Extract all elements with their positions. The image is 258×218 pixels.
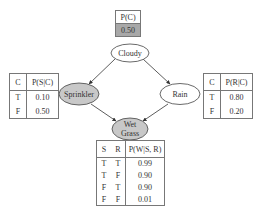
cpt-wetgrass-row-s: T: [97, 170, 112, 182]
cpt-wetgrass-row-p: 0.01: [126, 194, 165, 206]
edge-sprinkler-wetgrass: [91, 104, 116, 121]
cpt-wetgrass: S R P(W|S, R) T T 0.99 T F 0.90 F T 0.90…: [96, 140, 165, 206]
node-sprinkler-label: Sprinkler: [64, 90, 94, 99]
cpt-rain-row-p: 0.20: [221, 105, 253, 119]
cpt-rain-header-p: P(R|C): [221, 74, 253, 91]
cpt-wetgrass-row-r: F: [111, 170, 126, 182]
cpt-wetgrass-header-r: R: [111, 141, 126, 158]
cpt-cloudy-value: 0.50: [116, 24, 141, 37]
cpt-rain-row-p: 0.80: [221, 91, 253, 105]
node-wetgrass-label-line1: Wet: [124, 120, 137, 129]
cpt-wetgrass-header-s: S: [97, 141, 112, 158]
cpt-wetgrass-header-p: P(W|S, R): [126, 141, 165, 158]
node-rain-label: Rain: [172, 90, 187, 99]
cpt-rain-row-c: F: [204, 105, 221, 119]
cpt-wetgrass-row-r: T: [111, 182, 126, 194]
cpt-wetgrass-row-s: F: [97, 194, 112, 206]
cpt-rain-row-c: T: [204, 91, 221, 105]
cpt-cloudy: P(C) 0.50: [115, 10, 141, 37]
cpt-wetgrass-row-r: F: [111, 194, 126, 206]
edge-cloudy-rain: [143, 59, 170, 84]
cpt-cloudy-header: P(C): [116, 11, 141, 24]
edge-rain-wetgrass: [143, 104, 168, 121]
cpt-sprinkler: C P(S|C) T 0.10 F 0.50: [9, 73, 59, 119]
cpt-wetgrass-row-p: 0.99: [126, 158, 165, 170]
cpt-wetgrass-row-s: F: [97, 182, 112, 194]
cpt-rain: C P(R|C) T 0.80 F 0.20: [203, 73, 253, 119]
node-sprinkler: Sprinkler: [59, 83, 99, 105]
cpt-wetgrass-row-p: 0.90: [126, 182, 165, 194]
cpt-sprinkler-row-p: 0.50: [27, 105, 59, 119]
cpt-wetgrass-row-r: T: [111, 158, 126, 170]
cpt-sprinkler-row-c: T: [10, 91, 27, 105]
node-wetgrass-label-line2: Grass: [121, 129, 139, 138]
cpt-sprinkler-row-p: 0.10: [27, 91, 59, 105]
node-cloudy-label: Cloudy: [118, 49, 142, 58]
cpt-wetgrass-row-s: T: [97, 158, 112, 170]
cpt-sprinkler-header-p: P(S|C): [27, 74, 59, 91]
node-wetgrass: Wet Grass: [112, 118, 148, 140]
cpt-wetgrass-row-p: 0.90: [126, 170, 165, 182]
node-rain: Rain: [160, 84, 200, 105]
edge-cloudy-sprinkler: [89, 59, 115, 84]
cpt-sprinkler-row-c: F: [10, 105, 27, 119]
cpt-sprinkler-header-c: C: [10, 74, 27, 91]
cpt-rain-header-c: C: [204, 74, 221, 91]
node-cloudy: Cloudy: [111, 44, 149, 62]
